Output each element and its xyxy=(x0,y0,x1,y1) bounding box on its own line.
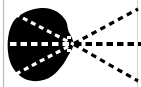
vertex-notch-lower xyxy=(67,49,71,52)
figure-graphic: Black blob with three dashed rays conver… xyxy=(0,0,141,87)
vertex-notch-upper xyxy=(67,36,71,39)
figure-canvas: Black blob with three dashed rays conver… xyxy=(0,0,141,87)
